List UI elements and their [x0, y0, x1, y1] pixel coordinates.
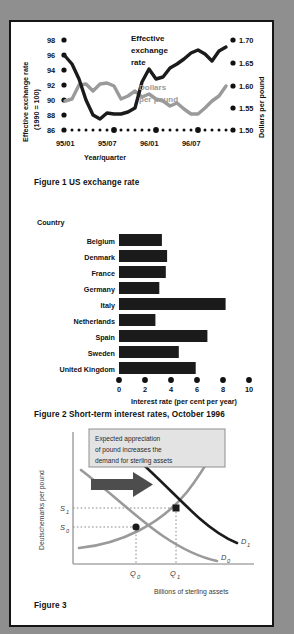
figure-1-series-label-1-c: rate	[131, 58, 146, 67]
figure-2-caption: Figure 2 Short-term interest rates, Octo…	[34, 410, 225, 419]
figure-3-annotation-callout: Expected appreciation of pound increases…	[89, 429, 225, 467]
svg-text:94: 94	[47, 66, 56, 75]
figure-1-series-label-1-a: Effective	[131, 34, 165, 43]
figure-3-q1-subscript: 1	[177, 574, 180, 580]
figure-3-s1-letter: S	[60, 504, 65, 513]
svg-text:96/07: 96/07	[182, 139, 201, 148]
figure-3-q0-subscript: 0	[137, 574, 141, 580]
figure-2-label-germany: Germany	[84, 285, 115, 294]
figure-1-right-axis-title: Dollars per pound	[257, 77, 266, 139]
svg-text:1.60: 1.60	[239, 82, 253, 91]
table-row	[119, 234, 162, 246]
figure-3-s1-subscript: 1	[66, 509, 69, 515]
figure-2-tick-2: 2	[143, 385, 147, 394]
table-row	[119, 282, 159, 294]
figure-2-bars	[119, 234, 226, 374]
figure-2-label-netherlands: Netherlands	[73, 317, 115, 326]
figure-1-x-axis-title: Year/quarter	[84, 153, 126, 162]
figure-3-curve-label-d1: D 1	[241, 537, 250, 548]
figure-2-tick-8: 8	[221, 385, 225, 394]
svg-text:1.70: 1.70	[239, 36, 253, 45]
figure-3-container: Deutschemarks per pound	[11, 420, 272, 625]
table-row	[119, 250, 167, 262]
svg-text:1.55: 1.55	[239, 104, 253, 113]
figure-3-equilibrium-point-1	[173, 505, 180, 512]
figure-2-category-axis-title: Country	[37, 218, 65, 227]
table-row	[119, 362, 196, 374]
textbook-page: Effective exchange rate (1990 = 100) Dol…	[9, 20, 274, 627]
figure-2-label-uk: United Kingdom	[60, 365, 116, 374]
figure-2-label-france: France	[91, 269, 115, 278]
figure-2-label-belgium: Belgium	[87, 237, 115, 246]
figure-3-quantity-label-q0: Q 0	[130, 569, 141, 580]
figure-1-line-chart: Effective exchange rate (1990 = 100) Dol…	[11, 26, 272, 176]
figure-3-caption: Figure 3	[34, 601, 67, 610]
svg-text:96/01: 96/01	[140, 139, 159, 148]
figure-2-label-sweden: Sweden	[88, 349, 115, 358]
figure-2-label-spain: Spain	[95, 333, 115, 342]
figure-1-baseline	[71, 127, 228, 133]
table-row	[119, 314, 155, 326]
figure-3-supply-demand-diagram: Deutschemarks per pound	[11, 420, 272, 600]
figure-1-container: Effective exchange rate (1990 = 100) Dol…	[11, 26, 272, 201]
svg-text:95/01: 95/01	[56, 139, 75, 148]
figure-1-label-dollars: Dollars per pound	[139, 83, 178, 104]
figure-2-category-labels: Belgium Denmark France Germany Italy Net…	[60, 237, 116, 374]
svg-text:1.50: 1.50	[239, 126, 253, 135]
figure-1-left-ticks: 98 96 94 92 90 88 86	[47, 36, 67, 135]
figure-3-price-label-s1: S 1	[60, 504, 69, 515]
figure-3-annotation-line-3: demand for sterling assets	[95, 457, 173, 465]
figure-3-quantity-label-q1: Q 1	[170, 569, 180, 580]
figure-3-curve-label-d0: D 0	[221, 553, 231, 564]
figure-2-tick-10: 10	[245, 385, 253, 394]
figure-2-bar-chart: Country Belgium Denmark France Germany I…	[11, 212, 272, 384]
figure-3-d1-subscript: 1	[247, 542, 250, 548]
figure-1-caption: Figure 1 US exchange rate	[34, 178, 139, 187]
figure-1-x-ticks: 95/01 95/07 96/01 96/07	[56, 139, 201, 148]
figure-3-q1-letter: Q	[170, 569, 176, 578]
figure-3-s0-letter: S	[60, 523, 65, 532]
svg-text:86: 86	[47, 126, 55, 135]
figure-3-y-axis-title: Deutschemarks per pound	[38, 470, 46, 550]
svg-text:1.65: 1.65	[239, 59, 253, 68]
svg-text:90: 90	[47, 96, 55, 105]
figure-1-left-axis-title-line2: (1990 = 100)	[32, 88, 41, 130]
figure-1-series-label-2-a: Dollars	[139, 83, 167, 92]
figure-2-axis-labels: 0 2 4 6 8 10 Interest rate (per cent per…	[11, 383, 272, 407]
figure-1-series-label-2-b: per pound	[139, 95, 178, 104]
figure-2-label-italy: Italy	[101, 301, 115, 310]
figure-2-tick-4: 4	[169, 385, 174, 394]
figure-1-label-effective: Effective exchange rate	[131, 34, 168, 67]
figure-3-price-label-s0: S 0	[60, 523, 70, 534]
table-row	[119, 330, 207, 342]
figure-2-label-denmark: Denmark	[84, 253, 115, 262]
figure-2-tick-0: 0	[117, 385, 121, 394]
figure-1-series-label-1-b: exchange	[131, 46, 168, 55]
figure-2-x-axis-title: Interest rate (per cent per year)	[131, 397, 237, 406]
svg-text:96: 96	[47, 51, 55, 60]
table-row	[119, 346, 179, 358]
figure-3-equilibrium-point-0	[132, 523, 139, 530]
table-row	[119, 298, 226, 310]
svg-text:98: 98	[47, 36, 55, 45]
figure-2-container: Country Belgium Denmark France Germany I…	[11, 212, 272, 407]
figure-2-x-tick-labels: 0 2 4 6 8 10	[117, 385, 253, 394]
figure-3-annotation-line-2: of pound increases the	[95, 446, 162, 454]
figure-1-right-ticks: 1.70 1.65 1.60 1.55 1.50	[230, 36, 253, 135]
figure-3-q0-letter: Q	[130, 569, 136, 578]
svg-text:95/07: 95/07	[98, 139, 117, 148]
table-row	[119, 266, 166, 278]
figure-3-d0-subscript: 0	[227, 558, 231, 564]
svg-text:92: 92	[47, 81, 55, 90]
figure-2-tick-6: 6	[195, 385, 199, 394]
figure-3-shift-arrow	[91, 472, 153, 497]
figure-3-x-axis-title: Billions of sterling assets	[154, 588, 229, 596]
svg-text:88: 88	[47, 111, 55, 120]
figure-3-s0-subscript: 0	[66, 528, 70, 534]
figure-3-annotation-line-1: Expected appreciation	[95, 435, 161, 443]
figure-1-left-axis-title-line1: Effective exchange rate	[21, 62, 30, 142]
